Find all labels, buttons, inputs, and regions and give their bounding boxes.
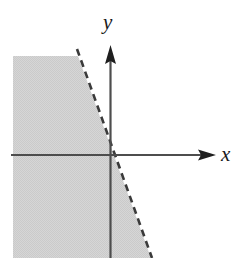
y-axis-label: y <box>103 12 112 33</box>
graph-canvas <box>0 0 239 258</box>
x-axis-label: x <box>221 144 230 165</box>
shaded-region <box>13 56 151 258</box>
inequality-region-graph: y x <box>0 0 239 258</box>
